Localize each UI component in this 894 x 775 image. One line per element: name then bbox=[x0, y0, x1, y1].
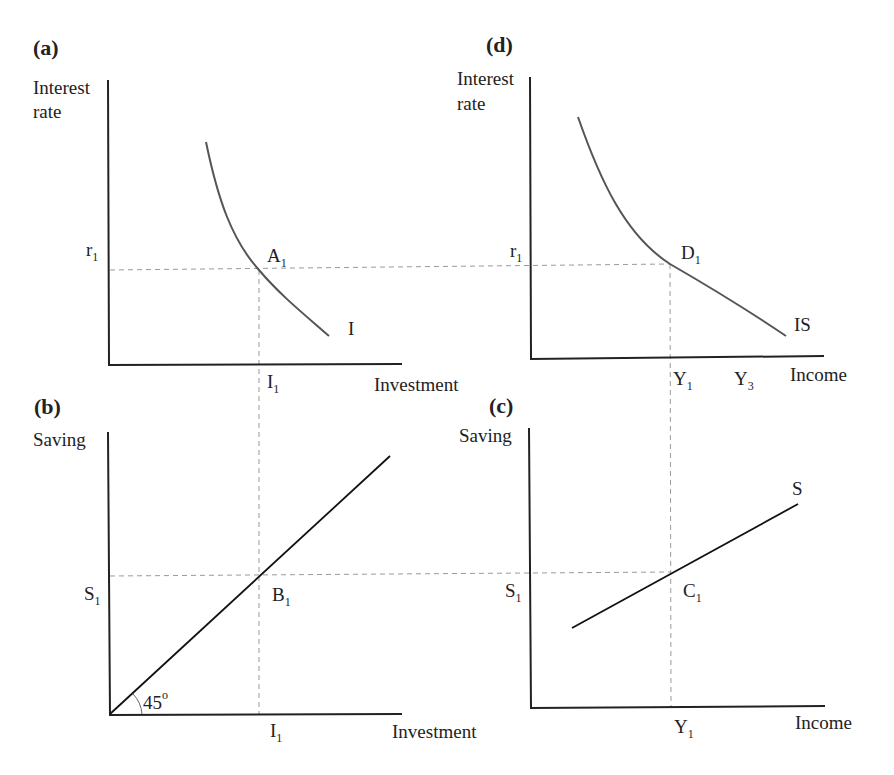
panel-d-label: (d) bbox=[486, 32, 513, 57]
panel-b-axes bbox=[108, 432, 402, 715]
panel-a-y-axis-label-1: Interest bbox=[33, 77, 91, 98]
y1-guide bbox=[670, 264, 671, 707]
y1-tick-c: Y1 bbox=[674, 716, 694, 741]
panel-d-y-axis-label-2: rate bbox=[457, 93, 485, 114]
panel-a-axes bbox=[108, 80, 402, 365]
point-b1: B1 bbox=[272, 584, 291, 609]
r1-guide bbox=[110, 264, 670, 270]
panel-c-label: (c) bbox=[489, 393, 513, 418]
is-curve bbox=[578, 117, 786, 336]
y1-tick-d: Y1 bbox=[673, 368, 693, 393]
panel-b-label: (b) bbox=[34, 394, 61, 419]
panel-b-y-axis-label: Saving bbox=[33, 429, 86, 450]
s1-tick-c: S1 bbox=[505, 580, 522, 605]
i1-tick-b: I1 bbox=[270, 720, 282, 745]
investment-curve-label: I bbox=[348, 318, 354, 339]
panel-c-axes bbox=[529, 428, 825, 708]
axes bbox=[108, 77, 825, 715]
panel-c-x-axis-label: Income bbox=[795, 712, 852, 733]
r1-tick-a: r1 bbox=[86, 239, 98, 264]
is-curve-label: IS bbox=[794, 314, 811, 335]
panel-c-y-axis-label: Saving bbox=[459, 425, 512, 446]
s1-guide bbox=[110, 572, 671, 576]
panel-d-x-axis-label: Income bbox=[790, 364, 847, 385]
point-d1: D1 bbox=[681, 242, 701, 267]
investment-curve bbox=[206, 142, 329, 336]
panel-a-label: (a) bbox=[33, 35, 59, 60]
point-c1: C1 bbox=[683, 580, 702, 605]
saving-curve bbox=[572, 504, 798, 628]
is-curve-derivation-diagram: (a) Interest rate Investment I A1 r1 I1 … bbox=[0, 0, 894, 775]
panel-d-axes bbox=[530, 77, 824, 359]
angle-45-label: 45o bbox=[143, 688, 168, 713]
r1-tick-d: r1 bbox=[510, 240, 522, 265]
guide-lines bbox=[110, 264, 671, 714]
panel-a-x-axis-label: Investment bbox=[374, 374, 459, 395]
45-degree-line bbox=[110, 456, 390, 714]
s1-tick-b: S1 bbox=[84, 583, 101, 608]
saving-curve-label: S bbox=[792, 478, 803, 499]
panel-a-y-axis-label-2: rate bbox=[33, 101, 61, 122]
panel-d-y-axis-label-1: Interest bbox=[457, 68, 515, 89]
panel-b-x-axis-label: Investment bbox=[392, 721, 477, 742]
point-a1: A1 bbox=[267, 245, 287, 270]
angle-arc-icon bbox=[133, 694, 142, 714]
y3-tick-d: Y3 bbox=[734, 368, 754, 393]
i1-tick-a: I1 bbox=[267, 371, 279, 396]
